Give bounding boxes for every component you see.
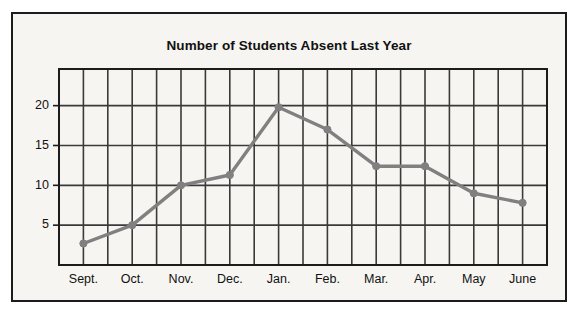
data-point (129, 222, 136, 229)
data-point (421, 163, 428, 170)
data-point (226, 171, 233, 178)
y-axis-tick-labels: 5101520 (35, 98, 49, 232)
x-axis-label: Sept. (69, 272, 98, 286)
y-axis-label: 15 (35, 138, 49, 152)
data-point (373, 163, 380, 170)
x-axis-label: June (509, 272, 536, 286)
y-axis-label: 20 (35, 98, 49, 112)
x-axis-label: Nov. (169, 272, 194, 286)
chart-frame: Number of Students Absent Last Year 5101… (11, 12, 567, 302)
x-axis-label: Mar. (364, 272, 388, 286)
x-axis-label: May (462, 272, 486, 286)
x-axis-label: Oct. (121, 272, 144, 286)
x-axis-label: Dec. (217, 272, 243, 286)
data-point (177, 182, 184, 189)
x-axis-tick-labels: Sept.Oct.Nov.Dec.Jan.Feb.Mar.Apr.MayJune (69, 272, 536, 286)
data-point (275, 104, 282, 111)
x-axis-label: Jan. (267, 272, 291, 286)
line-chart-plot: 5101520 Sept.Oct.Nov.Dec.Jan.Feb.Mar.Apr… (13, 14, 569, 304)
y-axis-label: 10 (35, 178, 49, 192)
y-axis-label: 5 (42, 217, 49, 231)
grid-vertical-lines (59, 69, 547, 265)
data-point (519, 199, 526, 206)
x-axis-label: Apr. (414, 272, 436, 286)
data-point (324, 126, 331, 133)
data-point (470, 190, 477, 197)
x-axis-label: Feb. (315, 272, 340, 286)
data-point (80, 240, 87, 247)
